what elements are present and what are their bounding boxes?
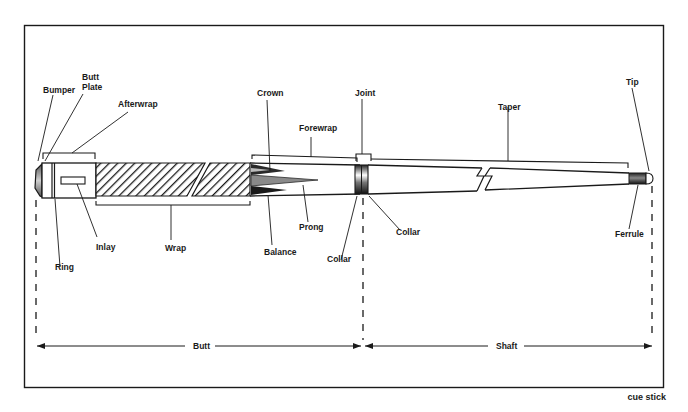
label-prong: Prong — [299, 222, 324, 232]
label-joint: Joint — [355, 88, 375, 98]
dimension-label-butt: Butt — [193, 341, 210, 351]
label-forewrap: Forewrap — [299, 123, 337, 133]
label-ferrule: Ferrule — [615, 229, 644, 239]
shaft-shape-left — [368, 165, 482, 194]
label-inlay: Inlay — [96, 242, 116, 252]
figure-frame — [25, 26, 664, 388]
label-collar-left: Collar — [327, 254, 352, 264]
label-balance: Balance — [264, 247, 297, 257]
label-taper: Taper — [498, 102, 521, 112]
ferrule-shape — [629, 173, 646, 184]
inlay-shape — [61, 177, 85, 184]
dimension-label-shaft: Shaft — [496, 341, 517, 351]
shaft-shape-right — [485, 168, 629, 190]
label-ring: Ring — [55, 262, 74, 272]
label-wrap: Wrap — [165, 243, 186, 253]
bumper-shape — [35, 164, 42, 197]
cue-stick-diagram: Bumper Butt Plate Afterwrap Ring Inlay W… — [0, 0, 688, 412]
label-bumper: Bumper — [43, 85, 76, 95]
label-crown: Crown — [257, 88, 283, 98]
cue-stick — [35, 163, 653, 198]
wrap-shape-left — [96, 163, 205, 196]
label-afterwrap: Afterwrap — [118, 99, 158, 109]
label-butt-plate-line1: Butt — [82, 72, 99, 82]
label-butt-plate-line2: Plate — [82, 82, 103, 92]
figure-caption: cue stick — [627, 392, 666, 402]
prong-points — [251, 164, 318, 195]
label-collar-right: Collar — [396, 227, 421, 237]
tip-shape — [646, 173, 653, 184]
label-tip: Tip — [626, 77, 639, 87]
